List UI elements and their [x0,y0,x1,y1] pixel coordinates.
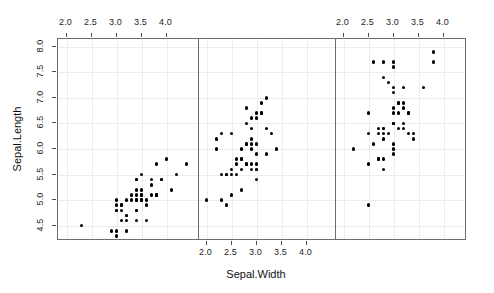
x-tick-label: 4.0 [159,17,172,27]
y-tick-label: 8.0 [35,39,45,52]
y-tick-mark [52,71,56,72]
y-tick-label: 4.5 [35,218,45,231]
y-tick-mark [52,225,56,226]
x-tick-mark [91,33,92,37]
x-tick-mark [206,241,207,245]
y-tick-label: 6.0 [35,142,45,155]
scatter-plot-figure: Sepal.Width Sepal.Length 2.02.53.03.54.0… [0,0,494,293]
x-tick-mark [443,33,444,37]
x-tick-label: 2.0 [59,17,72,27]
x-tick-mark [281,241,282,245]
x-tick-mark [368,33,369,37]
x-tick-label: 3.5 [274,247,287,257]
x-tick-label: 2.5 [84,17,97,27]
y-tick-mark [52,174,56,175]
y-tick-mark [52,148,56,149]
x-tick-mark [306,241,307,245]
x-tick-label: 4.0 [299,247,312,257]
x-tick-mark [66,33,67,37]
x-tick-label: 3.0 [249,247,262,257]
x-tick-label: 2.5 [224,247,237,257]
x-tick-label: 3.5 [134,17,147,27]
x-tick-label: 3.0 [386,17,399,27]
x-tick-mark [256,241,257,245]
x-tick-label: 3.5 [411,17,424,27]
x-tick-mark [343,33,344,37]
x-tick-mark [418,33,419,37]
y-tick-label: 7.5 [35,65,45,78]
y-tick-mark [52,46,56,47]
x-tick-mark [141,33,142,37]
x-tick-label: 2.5 [361,17,374,27]
y-tick-label: 5.5 [35,167,45,180]
y-tick-label: 5.0 [35,193,45,206]
x-tick-label: 2.0 [336,17,349,27]
x-tick-mark [166,33,167,37]
axes-host: 2.02.53.03.54.02.02.53.03.54.02.02.53.03… [0,0,494,293]
x-tick-label: 3.0 [109,17,122,27]
x-tick-mark [231,241,232,245]
y-tick-mark [52,199,56,200]
x-tick-mark [393,33,394,37]
x-tick-label: 4.0 [436,17,449,27]
y-tick-mark [52,122,56,123]
y-tick-label: 7.0 [35,90,45,103]
y-tick-mark [52,97,56,98]
x-tick-mark [116,33,117,37]
y-tick-label: 6.5 [35,116,45,129]
x-tick-label: 2.0 [199,247,212,257]
